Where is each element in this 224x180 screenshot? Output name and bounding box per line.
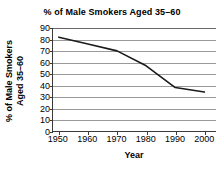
chart-title: % of Male Smokers Aged 35–60: [0, 7, 224, 17]
x-tick-label: 1960: [77, 134, 97, 144]
x-tick-label: 1990: [165, 134, 185, 144]
y-axis-title: % of Male Smokers Aged 35–60: [0, 22, 30, 140]
x-axis-title: Year: [52, 150, 216, 160]
chart-figure: % of Male Smokers Aged 35–60 % of Male S…: [0, 0, 224, 180]
y-tick-label: 90: [28, 24, 50, 33]
y-tick-label: 20: [28, 104, 50, 113]
y-tick-label: 70: [28, 47, 50, 56]
y-tick-mark: [50, 132, 53, 133]
x-tick-label: 1970: [106, 134, 126, 144]
series-polyline: [59, 37, 205, 92]
y-tick-label: 60: [28, 58, 50, 67]
y-axis-title-line-2: Aged 35–60: [15, 40, 26, 122]
x-tick-label: 2000: [194, 134, 214, 144]
y-axis-title-line-1: % of Male Smokers: [4, 40, 15, 122]
series-line-smokers: [53, 28, 216, 131]
x-tick-label: 1980: [136, 134, 156, 144]
y-tick-label: 80: [28, 35, 50, 44]
y-tick-label: 50: [28, 70, 50, 79]
y-tick-label: 30: [28, 93, 50, 102]
x-tick-label: 1950: [48, 134, 68, 144]
y-tick-label: 10: [28, 116, 50, 125]
y-tick-label: 40: [28, 81, 50, 90]
x-axis-tick-labels: 195019601970198019902000: [52, 134, 216, 146]
y-axis-tick-labels: 0102030405060708090: [28, 28, 50, 132]
plot-area: [52, 28, 216, 132]
y-tick-label: 0: [28, 128, 50, 137]
